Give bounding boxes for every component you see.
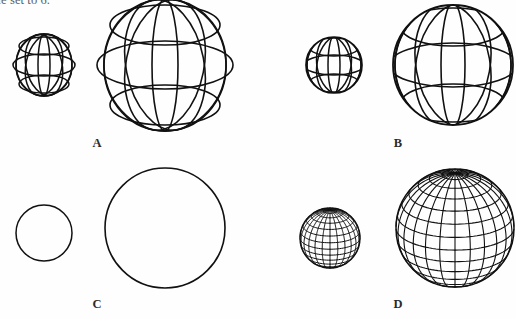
sphere-d-small [300, 208, 360, 268]
sphere-c-small [16, 205, 72, 261]
panel-label-c: C [87, 297, 107, 312]
panel-label-d: D [388, 297, 408, 312]
panel-b: B [258, 0, 516, 160]
panel-a: A [0, 0, 258, 160]
panel-b-graphic [258, 0, 516, 160]
sphere-b-large [389, 0, 516, 132]
sphere-b-small [304, 33, 364, 96]
panel-d: D [258, 160, 516, 319]
panel-label-a: A [87, 136, 107, 151]
panel-c-graphic [0, 160, 258, 319]
sphere-d-large [396, 169, 514, 287]
panel-c: C [0, 160, 258, 319]
panel-d-graphic [258, 160, 516, 319]
panel-label-b: B [388, 136, 408, 151]
figure-page: ariable set to 6. [0, 0, 516, 319]
sphere-a-large [97, 0, 233, 137]
sphere-a-small [13, 31, 75, 99]
sphere-c-large [105, 168, 225, 288]
panel-a-graphic [0, 0, 258, 160]
